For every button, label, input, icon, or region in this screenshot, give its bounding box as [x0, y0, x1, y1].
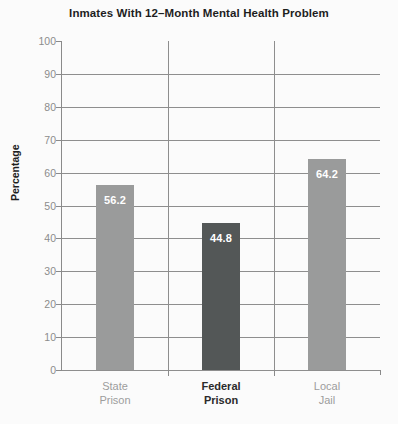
x-axis-category-label: FederalPrison — [168, 379, 274, 407]
bar[interactable]: 56.2 — [96, 185, 134, 370]
category-label-line: Local — [274, 379, 380, 393]
x-tick-mark — [168, 370, 169, 376]
plot-area: 56.244.864.2 — [62, 41, 380, 370]
y-tick-label: 40 — [44, 232, 56, 244]
x-tick-mark — [274, 370, 275, 376]
x-axis-cap — [380, 370, 381, 375]
category-label-line: Prison — [168, 393, 274, 407]
y-tick-label: 100 — [38, 35, 56, 47]
bar-chart: Inmates With 12–Month Mental Health Prob… — [0, 0, 398, 424]
bar-value-label: 56.2 — [96, 194, 134, 206]
category-label-line: Federal — [168, 379, 274, 393]
category-label-line: Jail — [274, 393, 380, 407]
x-axis-category-label: StatePrison — [62, 379, 168, 407]
bar-value-label: 44.8 — [202, 232, 240, 244]
chart-title: Inmates With 12–Month Mental Health Prob… — [0, 7, 398, 19]
gridline-horizontal — [62, 140, 380, 141]
gridline-vertical — [168, 41, 169, 370]
y-tick-label: 30 — [44, 265, 56, 277]
gridline-horizontal — [62, 107, 380, 108]
y-axis-label: Percentage — [9, 175, 21, 201]
y-tick-label: 60 — [44, 167, 56, 179]
category-label-line: Prison — [62, 393, 168, 407]
x-axis-category-label: LocalJail — [274, 379, 380, 407]
category-label-line: State — [62, 379, 168, 393]
bar-value-label: 64.2 — [308, 168, 346, 180]
y-tick-label: 50 — [44, 200, 56, 212]
y-tick-label: 90 — [44, 68, 56, 80]
y-tick-label: 80 — [44, 101, 56, 113]
gridline-horizontal — [62, 370, 380, 371]
y-tick-label: 0 — [50, 364, 56, 376]
gridline-vertical — [274, 41, 275, 370]
bar[interactable]: 44.8 — [202, 223, 240, 370]
y-tick-label: 20 — [44, 298, 56, 310]
y-tick-label: 70 — [44, 134, 56, 146]
y-tick-label: 10 — [44, 331, 56, 343]
gridline-horizontal — [62, 74, 380, 75]
bar[interactable]: 64.2 — [308, 159, 346, 370]
